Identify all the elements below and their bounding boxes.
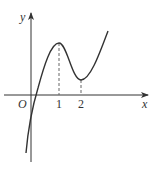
tick-label-2: 2 [78, 97, 84, 111]
x-axis-label: x [141, 97, 148, 111]
function-graph: y x O 1 2 [0, 0, 155, 172]
function-curve [26, 31, 108, 153]
tick-label-1: 1 [56, 97, 62, 111]
origin-label: O [18, 97, 27, 111]
y-axis-label: y [19, 10, 26, 24]
